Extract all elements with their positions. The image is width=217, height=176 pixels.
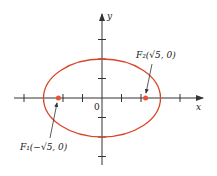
ellipse-diagram: x y 0 F₁(−√5, 0) F₂(√5, 0) xyxy=(0,0,217,176)
x-axis-label: x xyxy=(196,102,201,112)
focus-f2-label: F₂(√5, 0) xyxy=(135,50,176,60)
focus-f2-point xyxy=(143,96,148,101)
focus-f1-point xyxy=(56,96,61,101)
diagram-canvas: x y 0 F₁(−√5, 0) F₂(√5, 0) xyxy=(0,0,217,176)
origin-label: 0 xyxy=(94,102,100,112)
f2-pointer-arrow xyxy=(146,64,152,93)
focus-f1-label: F₁(−√5, 0) xyxy=(19,142,68,152)
f1-pointer-arrow xyxy=(50,103,57,138)
y-axis-label: y xyxy=(106,11,113,21)
